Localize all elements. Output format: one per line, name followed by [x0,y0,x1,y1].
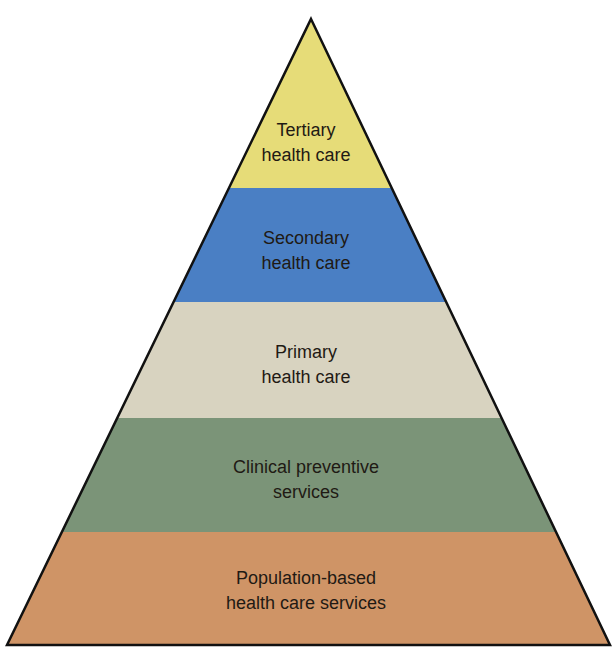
label-tertiary: Tertiary health care [0,118,612,168]
label-line: Secondary [0,226,612,251]
label-line: health care [0,143,612,168]
label-population-based: Population-based health care services [0,566,612,616]
label-primary: Primary health care [0,340,612,390]
label-line: Primary [0,340,612,365]
label-line: health care [0,365,612,390]
label-line: Tertiary [0,118,612,143]
label-line: health care services [0,591,612,616]
label-line: health care [0,251,612,276]
label-secondary: Secondary health care [0,226,612,276]
label-line: Population-based [0,566,612,591]
label-line: services [0,480,612,505]
label-clinical-preventive: Clinical preventive services [0,455,612,505]
label-line: Clinical preventive [0,455,612,480]
pyramid-diagram [0,0,612,656]
